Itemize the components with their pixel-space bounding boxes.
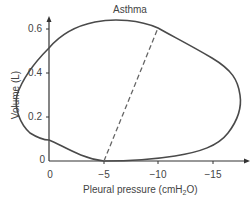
compliance-dashed-line (104, 28, 158, 161)
y-tick-label: 0.6 (22, 24, 42, 34)
x-tick-label: −15 (201, 170, 225, 180)
y-tick-label: 0.2 (22, 112, 42, 122)
chart-title: Asthma (113, 5, 147, 15)
x-tick-label: −10 (146, 170, 170, 180)
y-tick-label: 0 (25, 155, 45, 165)
x-tick-label: 0 (38, 170, 62, 180)
y-axis-arrow-icon (47, 16, 52, 22)
y-tick-label: 0.4 (22, 68, 42, 78)
x-axis-arrow-icon (244, 159, 250, 164)
x-axis-label: Pleural pressure (cmH2O) (83, 185, 198, 196)
pressure-volume-loop (16, 20, 240, 161)
x-tick-label: −5 (92, 170, 116, 180)
y-axis-label: Volume (L) (11, 67, 21, 123)
